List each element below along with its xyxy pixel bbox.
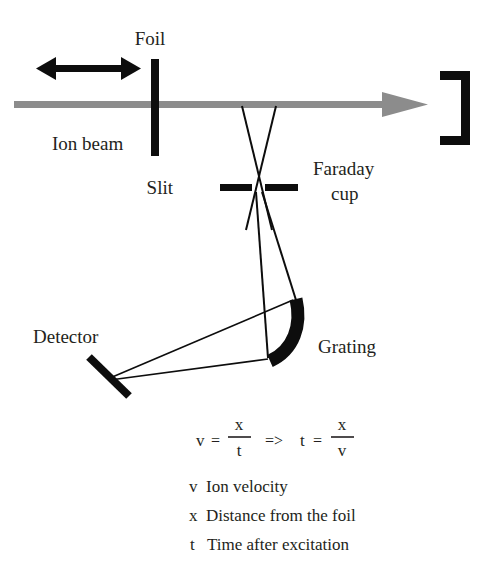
formula-denominator-1: t: [237, 441, 242, 460]
detector-bar-icon: [89, 357, 129, 396]
formula-v: v: [196, 431, 205, 450]
formula-equals-2: =: [313, 432, 322, 449]
light-rays-to-detector: [110, 300, 293, 380]
label-faraday-cup-line2: cup: [331, 183, 358, 204]
double-arrow-head-left: [36, 57, 56, 80]
label-detector: Detector: [33, 326, 99, 347]
double-arrow-head-right: [121, 57, 141, 80]
light-rays-upper: [242, 106, 276, 230]
double-arrow-shaft: [54, 65, 123, 72]
ray-grating-bottom-to-detector: [110, 359, 268, 380]
legend-list: v Ion velocity x Distance from the foil …: [189, 477, 356, 554]
slit-bars: [220, 184, 298, 191]
legend-symbol-0: v: [189, 477, 198, 496]
legend-symbol-1: x: [189, 506, 198, 525]
label-faraday-cup-line1: Faraday: [313, 158, 375, 179]
ray-slit-to-grating-lower: [256, 192, 268, 358]
foil-bar: [151, 59, 159, 156]
formula-numerator-2: x: [338, 415, 347, 434]
formula-implies: =>: [265, 432, 283, 449]
ray-grating-top-to-detector: [110, 300, 293, 378]
formula-numerator-1: x: [235, 415, 244, 434]
right-arrow-icon: [382, 92, 428, 117]
ion-beam-arrow: [14, 92, 428, 117]
legend-text-0: Ion velocity: [206, 477, 288, 496]
legend-text-2: Time after excitation: [207, 535, 349, 554]
formula-t: t: [300, 431, 305, 450]
legend-symbol-2: t: [190, 535, 195, 554]
label-slit: Slit: [147, 177, 174, 198]
slit-bar-left: [220, 184, 252, 191]
slit-bar-right: [265, 184, 298, 191]
label-foil: Foil: [135, 28, 166, 49]
faraday-cup-bracket-right-icon: [440, 71, 470, 145]
double-headed-arrow-icon: [36, 57, 141, 80]
label-ion-beam: Ion beam: [52, 133, 123, 154]
label-grating: Grating: [318, 336, 377, 357]
beam-foil-spectroscopy-diagram: Foil Ion beam Slit Faraday cup Detector …: [0, 0, 487, 585]
formula-expression: v = x t => t = x v: [196, 415, 354, 460]
ray-right-to-left: [246, 106, 276, 230]
ion-beam-shaft: [14, 101, 382, 108]
formula-equals-1: =: [211, 432, 220, 449]
legend-text-1: Distance from the foil: [206, 506, 356, 525]
formula-denominator-2: v: [338, 441, 347, 460]
ray-slit-to-grating-upper: [262, 192, 296, 300]
